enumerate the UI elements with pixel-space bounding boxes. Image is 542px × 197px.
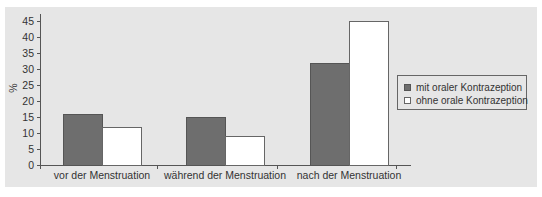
y-tick-label: 15 xyxy=(12,111,34,123)
y-tick-label: 5 xyxy=(12,143,34,155)
legend-item-with-oc: mit oraler Kontrazeption xyxy=(404,82,522,93)
y-tick-mark xyxy=(37,149,41,150)
y-tick-mark xyxy=(37,117,41,118)
bar-with-oc xyxy=(310,63,350,166)
y-tick-mark xyxy=(37,133,41,134)
y-tick-label: 30 xyxy=(12,63,34,75)
bar-without-oc xyxy=(349,21,389,166)
legend-item-without-oc: ohne orale Kontrazeption xyxy=(404,95,528,106)
y-tick-label: 20 xyxy=(12,95,34,107)
bar-chart: % 051015202530354045 vor der Menstruatio… xyxy=(0,0,542,197)
legend-label: ohne orale Kontrazeption xyxy=(416,95,528,106)
y-tick-label: 45 xyxy=(12,15,34,27)
y-tick-label: 35 xyxy=(12,47,34,59)
y-tick-mark xyxy=(37,85,41,86)
bar-without-oc xyxy=(225,136,265,166)
y-tick-mark xyxy=(37,37,41,38)
bar-without-oc xyxy=(102,127,142,166)
category-label: nach der Menstruation xyxy=(287,169,411,181)
legend-label: mit oraler Kontrazeption xyxy=(416,82,522,93)
category-label: vor der Menstruation xyxy=(40,169,164,181)
legend: mit oraler Kontrazeption ohne orale Kont… xyxy=(397,75,527,110)
bar-with-oc xyxy=(63,114,103,166)
y-tick-label: 25 xyxy=(12,79,34,91)
y-tick-mark xyxy=(37,101,41,102)
legend-swatch-light xyxy=(404,97,411,104)
y-tick-label: 10 xyxy=(12,127,34,139)
bar-with-oc xyxy=(186,117,226,166)
legend-swatch-dark xyxy=(404,84,411,91)
y-tick-mark xyxy=(37,53,41,54)
y-tick-label: 0 xyxy=(12,159,34,171)
y-tick-mark xyxy=(37,69,41,70)
category-label: während der Menstruation xyxy=(163,169,287,181)
y-tick-label: 40 xyxy=(12,31,34,43)
y-tick-mark xyxy=(37,21,41,22)
